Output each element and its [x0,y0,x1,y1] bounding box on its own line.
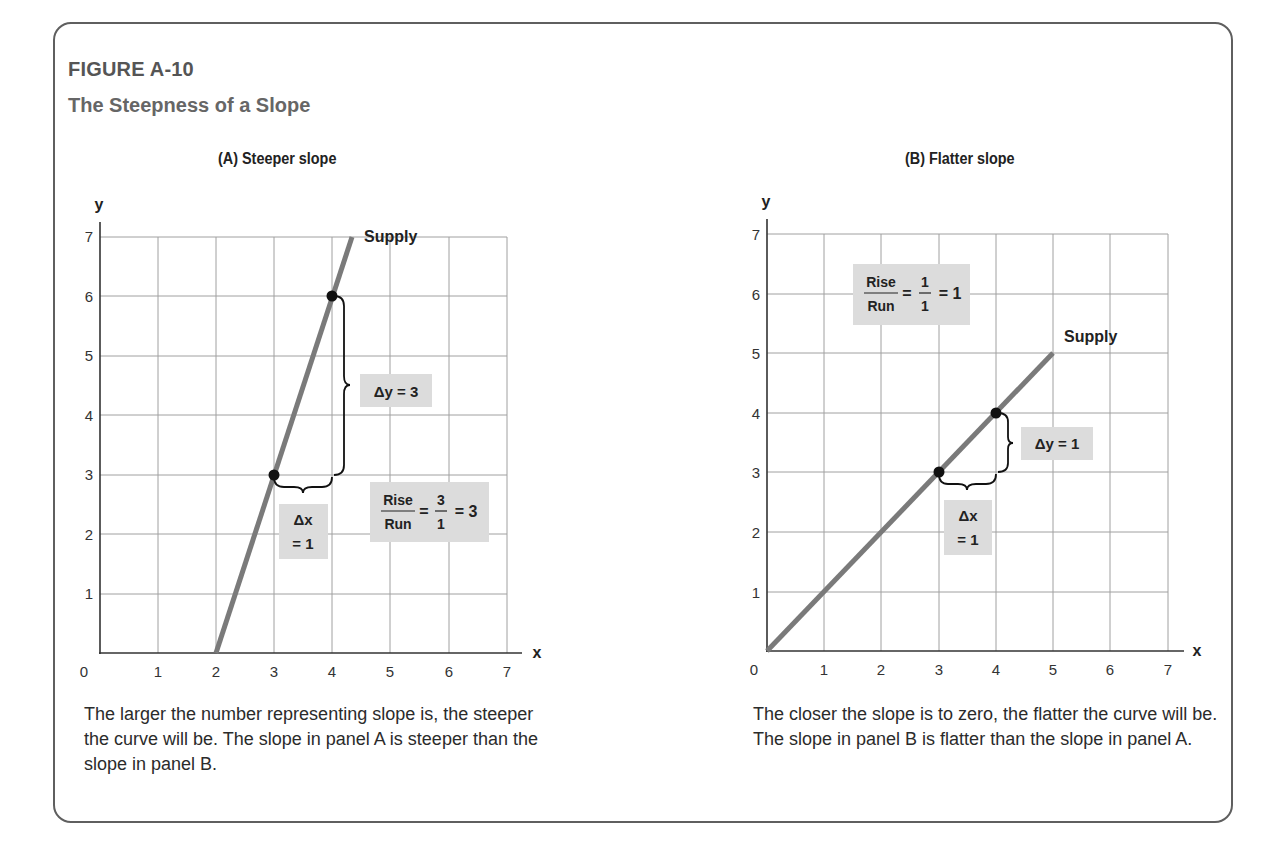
svg-text:1: 1 [820,661,828,678]
panel-a-point-3-3 [269,470,280,481]
svg-text:=: = [902,285,911,302]
panel-b-delta-x-label-2: = 1 [957,531,978,548]
panel-a-delta-y-label: Δy = 3 [374,383,419,400]
panel-b-caption: The closer the slope is to zero, the fla… [753,702,1223,752]
svg-text:4: 4 [328,663,336,680]
panel-a-ratio: Rise Run = 3 1 = 3 [370,482,489,542]
svg-text:4: 4 [85,407,93,424]
svg-text:0: 0 [750,661,758,678]
svg-text:Run: Run [384,516,411,532]
svg-text:7: 7 [1164,661,1172,678]
svg-text:2: 2 [877,661,885,678]
svg-text:= 1: = 1 [939,285,962,302]
panel-a-delta-x-label-2: = 1 [292,535,313,552]
svg-text:7: 7 [85,228,93,245]
svg-text:3: 3 [437,492,445,508]
panel-a-delta-x-label-1: Δx [293,511,313,528]
svg-text:=: = [419,503,428,520]
svg-text:3: 3 [270,663,278,680]
svg-text:1: 1 [752,584,760,601]
svg-text:4: 4 [752,405,760,422]
svg-text:4: 4 [992,661,1000,678]
svg-text:3: 3 [85,466,93,483]
svg-text:6: 6 [85,288,93,305]
panel-a-grid [100,237,507,653]
svg-text:= 3: = 3 [455,503,478,520]
svg-text:1: 1 [921,274,929,290]
panel-b-delta-x-brace [939,474,996,490]
svg-text:5: 5 [85,347,93,364]
panel-b-point-4-4 [991,408,1002,419]
svg-text:Rise: Rise [383,492,413,508]
panel-b-chart: 0 1 2 3 4 5 6 7 1 2 3 4 5 6 7 y x Supply… [750,193,1202,678]
svg-text:0: 0 [80,663,88,680]
panel-a-supply-label: Supply [364,228,417,245]
panel-a-caption: The larger the number representing slope… [84,702,554,777]
panel-a-point-4-6 [327,291,338,302]
svg-text:1: 1 [921,298,929,314]
panel-b-delta-y-label: Δy = 1 [1035,435,1080,452]
svg-text:5: 5 [752,345,760,362]
panel-b-supply-label: Supply [1064,328,1117,345]
svg-text:5: 5 [386,663,394,680]
svg-text:7: 7 [503,663,511,680]
svg-text:6: 6 [752,286,760,303]
svg-text:5: 5 [1049,661,1057,678]
panel-b-supply-line [767,353,1053,651]
svg-text:6: 6 [1106,661,1114,678]
panel-b-delta-y-brace [998,413,1013,472]
svg-text:7: 7 [752,226,760,243]
panel-a-delta-y-brace [334,296,350,475]
svg-text:Rise: Rise [866,274,896,290]
panel-b-delta-x-label-1: Δx [958,507,978,524]
svg-text:2: 2 [212,663,220,680]
panel-b-y-axis-label: y [762,193,771,210]
svg-text:1: 1 [437,516,445,532]
panel-a-delta-x-brace [274,477,332,493]
svg-text:1: 1 [154,663,162,680]
svg-text:Run: Run [867,298,894,314]
svg-text:2: 2 [752,524,760,541]
panel-a-x-axis-label: x [533,644,542,661]
svg-text:1: 1 [85,585,93,602]
svg-text:2: 2 [85,526,93,543]
panel-b-x-axis-label: x [1193,642,1202,659]
panel-b-ratio: Rise Run = 1 1 = 1 [853,264,970,325]
svg-text:6: 6 [445,663,453,680]
panel-a-y-axis-label: y [95,196,104,213]
svg-text:3: 3 [752,464,760,481]
panel-b-point-3-3 [934,467,945,478]
svg-text:3: 3 [935,661,943,678]
panel-a-chart: 0 1 2 3 4 5 6 7 1 2 3 4 5 6 7 y x Supply… [80,196,542,680]
